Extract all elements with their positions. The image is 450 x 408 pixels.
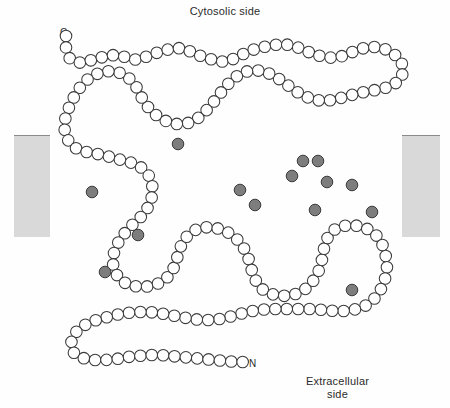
- residue-circle: [335, 92, 347, 104]
- residue-circle: [225, 311, 237, 323]
- residue-circle: [143, 170, 155, 182]
- residue-circle: [101, 354, 113, 366]
- extracellular-side-label: Extracellularside: [275, 375, 400, 401]
- residue-circle: [90, 314, 102, 326]
- residue-circle: [278, 290, 290, 302]
- residue-circle: [267, 289, 279, 301]
- residue-circle: [246, 264, 258, 276]
- residue-circle: [339, 220, 351, 232]
- residue-circle: [59, 124, 71, 136]
- residue-circle: [146, 307, 158, 319]
- residue-circle: [168, 262, 180, 274]
- residue-circle: [130, 280, 142, 292]
- residue-circle: [248, 44, 260, 56]
- residue-circle: [92, 148, 104, 160]
- residue-circle: [324, 94, 336, 106]
- residue-circle: [379, 273, 391, 285]
- residue-circle: [81, 146, 93, 158]
- highlighted-residue-circle: [312, 155, 324, 167]
- residue-circle: [318, 243, 330, 255]
- residue-circle: [292, 303, 304, 315]
- residue-circle: [74, 57, 86, 69]
- residue-circle: [184, 45, 196, 57]
- residue-circle: [60, 30, 72, 42]
- residue-circle: [380, 250, 392, 262]
- highlighted-residue-circle: [234, 184, 246, 196]
- residue-circle: [338, 305, 350, 317]
- residue-circle: [314, 50, 326, 62]
- residue-circle: [157, 308, 169, 320]
- residue-circle: [357, 86, 369, 98]
- residue-circle: [205, 53, 217, 65]
- residue-circle: [190, 224, 202, 236]
- residue-circle: [146, 192, 158, 204]
- residue-circle: [135, 350, 147, 362]
- residue-circle: [180, 352, 192, 364]
- residue-circle: [89, 354, 101, 366]
- residue-circle: [123, 351, 135, 363]
- residue-circle: [270, 39, 282, 51]
- residue-circle: [70, 142, 82, 154]
- highlighted-residue-circle: [346, 284, 358, 296]
- highlighted-residue-circle: [321, 176, 333, 188]
- residue-circle: [146, 349, 158, 361]
- highlighted-residue-circle: [99, 266, 111, 278]
- residue-circle: [194, 50, 206, 62]
- residue-circle: [225, 356, 237, 368]
- residue-circle: [313, 95, 325, 107]
- residue-circle: [247, 305, 259, 317]
- residue-circle: [203, 354, 215, 366]
- n-terminus-label: N: [249, 357, 256, 370]
- residue-circle: [135, 306, 147, 318]
- residue-circle: [112, 237, 124, 249]
- residue-circle: [237, 48, 249, 60]
- residue-circle: [258, 304, 270, 316]
- residue-circle: [236, 308, 248, 320]
- residue-circle: [238, 243, 250, 255]
- residue-circle: [63, 102, 75, 114]
- residue-circle: [107, 49, 119, 61]
- residue-circles: [59, 30, 408, 368]
- residue-circle: [157, 349, 169, 361]
- residue-circle: [96, 52, 108, 64]
- residue-circle: [281, 39, 293, 51]
- residue-circle: [172, 251, 184, 263]
- membrane-topology-figure: Cytosolic side C N Extracellularside: [0, 0, 450, 408]
- residue-circle: [78, 352, 90, 364]
- residue-circle: [304, 303, 316, 315]
- residue-circle: [201, 222, 213, 234]
- residue-circle: [252, 65, 264, 77]
- residue-circle: [315, 304, 327, 316]
- residue-circle: [191, 314, 203, 326]
- residue-circle: [180, 312, 192, 324]
- highlighted-residue-circle: [309, 204, 321, 216]
- residue-circle: [396, 58, 408, 70]
- residue-circle: [118, 51, 130, 63]
- highlighted-residue-circle: [172, 138, 184, 150]
- residue-circle: [66, 336, 78, 348]
- residue-circle: [162, 44, 174, 56]
- residue-circle: [369, 41, 381, 53]
- residue-circle: [60, 42, 72, 54]
- residue-circle: [112, 309, 124, 321]
- residue-circle: [351, 220, 363, 232]
- residue-circle: [212, 223, 224, 235]
- residue-circle: [357, 43, 369, 55]
- residue-circle: [103, 65, 115, 77]
- residue-circle: [270, 303, 282, 315]
- residue-circle: [381, 262, 393, 274]
- residue-circle: [169, 351, 181, 363]
- residue-circle: [369, 84, 381, 96]
- residue-circle: [202, 314, 214, 326]
- residue-circle: [303, 46, 315, 58]
- highlighted-residue-circle: [366, 206, 378, 218]
- residue-circle: [168, 310, 180, 322]
- highlighted-residue-circle: [286, 170, 298, 182]
- residue-circle: [101, 311, 113, 323]
- residue-circle: [347, 46, 359, 58]
- residue-circle: [281, 303, 293, 315]
- residue-circle: [151, 47, 163, 59]
- residue-circle: [85, 55, 97, 67]
- residue-circle: [329, 224, 341, 236]
- residue-circle: [141, 281, 153, 293]
